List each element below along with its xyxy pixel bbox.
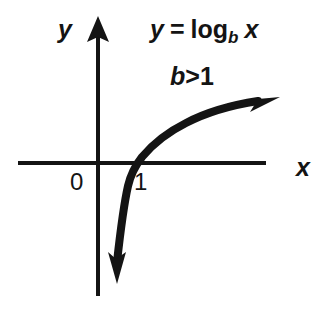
tick-label-one: 1 [134,170,147,194]
logarithm-graph-figure: y x 0 1 y=logbx b>1 [0,0,329,310]
condition-annotation: b>1 [170,62,214,91]
equation-equals: = [170,15,185,43]
equation-function: log [191,15,229,43]
equation-lhs: y [150,15,164,43]
equation-annotation: y=logbx [150,15,258,48]
x-axis-label: x [296,155,310,180]
condition-variable: b [170,62,185,90]
tick-label-zero: 0 [70,170,83,194]
equation-argument: x [244,15,258,43]
y-axis-label: y [58,17,72,42]
condition-operator: > [185,62,200,90]
equation-base-subscript: b [228,28,238,47]
condition-value: 1 [200,62,214,90]
